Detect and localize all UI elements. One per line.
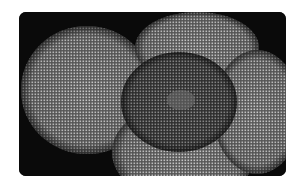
micrograph-image (19, 12, 286, 176)
diatom-picture (19, 12, 286, 176)
